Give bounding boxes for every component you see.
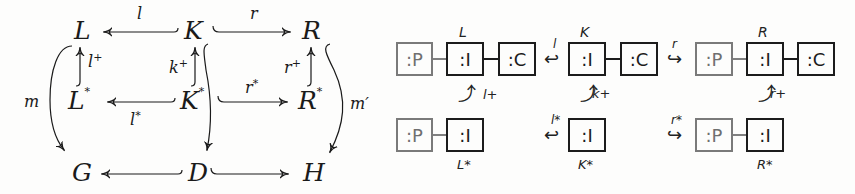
edge xyxy=(433,58,446,60)
node-D: D xyxy=(188,160,208,185)
label-r: r xyxy=(250,6,258,22)
arrow-m-prime xyxy=(326,44,343,152)
node-L-label: L xyxy=(74,16,91,45)
node-L: L xyxy=(74,18,91,43)
node-L-star: L* xyxy=(68,88,90,113)
node-box-I: :I xyxy=(746,118,784,152)
arrow-l-plus xyxy=(76,48,80,86)
edge xyxy=(784,58,797,60)
node-box-I: :I xyxy=(568,42,606,76)
node-L-star-label: L xyxy=(68,86,85,115)
arrow-g xyxy=(102,170,182,174)
node-box-P: :P xyxy=(396,42,433,76)
label-k-plus-base: k xyxy=(169,58,179,77)
label-k-plus: k+ xyxy=(169,60,188,76)
node-R-star-label: R xyxy=(298,86,317,115)
node-K-label: K xyxy=(184,16,203,45)
hook-right-arrow-icon: ↪ xyxy=(667,50,682,68)
node-box-I: :I xyxy=(446,118,484,152)
edge xyxy=(606,58,620,60)
label-r-plus: r+ xyxy=(284,60,301,76)
edge xyxy=(484,58,498,60)
node-D-label: D xyxy=(188,158,208,187)
node-box-I: :I xyxy=(446,42,484,76)
graph-label-K: K xyxy=(580,24,589,40)
star-superscript: * xyxy=(317,85,323,98)
node-R-label: R xyxy=(302,16,321,45)
arrow-label-r-plus: r+ xyxy=(770,86,786,101)
label-l-star: l* xyxy=(130,112,141,128)
hook-left-arrow-icon: ↩ xyxy=(544,50,559,68)
node-K-star: K* xyxy=(180,88,204,113)
edge xyxy=(433,134,446,136)
star-superscript: * xyxy=(85,85,91,98)
plus-superscript: + xyxy=(93,51,102,64)
arrow-r-plus xyxy=(307,48,311,86)
node-box-C: :C xyxy=(498,42,536,76)
node-R: R xyxy=(302,18,321,43)
arrow-k-d xyxy=(204,44,211,150)
plus-superscript: + xyxy=(179,57,188,70)
label-r-star: r* xyxy=(245,80,258,96)
node-K: K xyxy=(184,18,203,43)
graph-label-L: L xyxy=(459,24,467,40)
node-box-I: :I xyxy=(746,42,784,76)
node-H-label: H xyxy=(303,158,325,187)
star-superscript: * xyxy=(199,85,205,98)
graph-label-R: R xyxy=(758,24,768,40)
hook-left-arrow-icon: ↩ xyxy=(544,126,559,144)
edge xyxy=(733,134,746,136)
hook-right-arrow-icon: ↪ xyxy=(667,126,682,144)
label-m-prime: m′ xyxy=(350,96,369,112)
label-l: l xyxy=(137,6,142,22)
node-K-star-label: K xyxy=(180,86,199,115)
plus-superscript: + xyxy=(292,57,301,70)
arrow-l-star xyxy=(108,98,175,102)
label-r-star-base: r xyxy=(245,78,253,97)
arrow-l xyxy=(104,28,178,32)
node-box-P: :P xyxy=(396,118,433,152)
arrow-r xyxy=(213,26,290,32)
arrow-label-k-plus: k+ xyxy=(592,86,610,101)
node-box-P: :P xyxy=(695,42,733,76)
node-H: H xyxy=(303,160,325,185)
node-box-P: :P xyxy=(695,118,733,152)
star-superscript: * xyxy=(253,77,259,90)
graph-label-K-star: K* xyxy=(578,157,593,172)
label-m: m xyxy=(24,94,39,110)
arrow-h xyxy=(211,168,288,174)
graph-label-L-star: L* xyxy=(457,157,471,172)
star-superscript: * xyxy=(135,109,141,122)
arrow-label-l-plus: l+ xyxy=(483,87,498,102)
label-r-plus-base: r xyxy=(284,58,292,77)
graph-label-R-star: R* xyxy=(757,157,773,172)
hook-up-arrow-icon: ⤴ xyxy=(458,85,476,103)
arrow-k-plus xyxy=(191,48,195,86)
node-G-label: G xyxy=(72,158,92,187)
node-box-C: :C xyxy=(797,42,835,76)
node-R-star: R* xyxy=(298,88,322,113)
node-G: G xyxy=(72,160,92,185)
diagram-canvas: L K R L* K* R* G D H l r l+ k+ r+ l* r* … xyxy=(0,0,855,194)
edge xyxy=(733,58,746,60)
node-box-I: :I xyxy=(568,118,606,152)
label-l-plus: l+ xyxy=(88,54,102,70)
node-box-C: :C xyxy=(620,42,658,76)
